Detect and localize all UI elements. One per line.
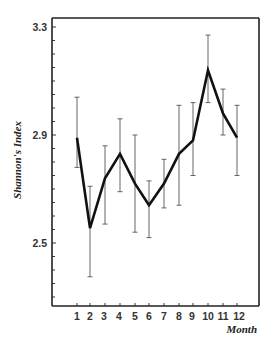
x-tick-label: 8 — [176, 310, 182, 322]
data-line — [77, 70, 237, 228]
x-tick-label: 7 — [161, 310, 167, 322]
y-axis-ticks — [52, 27, 56, 297]
plot-frame — [52, 18, 259, 306]
x-tick-label: 11 — [217, 310, 228, 322]
x-tick-label: 6 — [146, 310, 152, 322]
y-axis-tick-labels: 2.52.93.3 — [32, 21, 47, 249]
x-tick-label: 9 — [189, 310, 195, 322]
x-tick-label: 2 — [87, 310, 93, 322]
series-line — [77, 70, 237, 228]
y-tick-label: 2.9 — [32, 129, 47, 141]
x-tick-label: 10 — [202, 310, 214, 322]
y-tick-label: 2.5 — [32, 237, 47, 249]
x-axis-title: Month — [225, 323, 257, 335]
x-tick-label: 1 — [74, 310, 80, 322]
y-axis-title: Shannon's Index — [11, 121, 23, 199]
error-bars — [75, 35, 240, 277]
x-tick-label: 3 — [101, 310, 107, 322]
x-axis-tick-labels: 123456789101112 — [74, 310, 245, 322]
x-tick-label: 5 — [132, 310, 138, 322]
shannon-index-chart: 2.52.93.3 123456789101112 Shannon's Inde… — [0, 0, 275, 351]
x-tick-label: 12 — [233, 310, 245, 322]
x-tick-label: 4 — [116, 310, 122, 322]
y-tick-label: 3.3 — [32, 21, 47, 33]
